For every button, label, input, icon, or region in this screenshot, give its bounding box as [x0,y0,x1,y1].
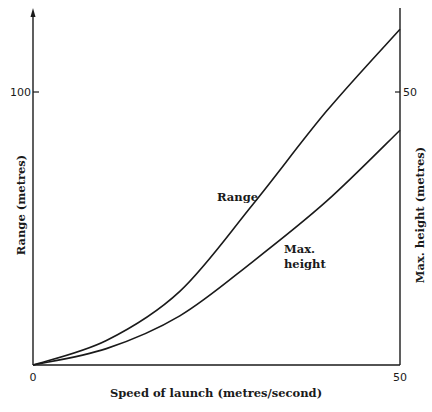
projectile-chart: 100 50 0 50 Range Max. height Speed of l… [0,0,432,412]
tick-label-y2-50: 50 [403,86,417,99]
y-axis-arrow-icon [31,8,36,17]
tick-label-x-50: 50 [393,371,407,384]
series-label-max-height-line1: Max. [284,242,315,256]
series-label-range: Range [217,190,258,204]
tick-label-y-100: 100 [10,86,31,99]
tick-label-x-0: 0 [30,371,37,384]
x-axis-title: Speed of launch (metres/second) [110,386,322,400]
y-axis-left-title: Range (metres) [14,155,28,256]
max-height-curve [33,130,400,365]
y-axis-right-title: Max. height (metres) [413,147,427,283]
series-label-max-height-line2: height [284,257,326,271]
